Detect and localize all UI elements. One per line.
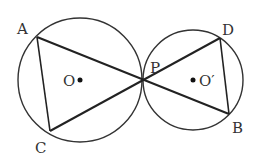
label-p: P [150, 59, 160, 77]
geometry-diagram: A C P D B O O′ [0, 0, 262, 161]
label-o-prime: O′ [199, 72, 215, 90]
label-a: A [16, 20, 28, 38]
center-o-prime-dot [191, 78, 196, 83]
label-b: B [232, 119, 243, 137]
label-d: D [222, 21, 234, 39]
label-c: C [35, 139, 46, 157]
segment-ac [37, 37, 50, 131]
center-o-dot [78, 78, 83, 83]
label-o: O [63, 72, 75, 90]
segment-db [220, 38, 229, 114]
